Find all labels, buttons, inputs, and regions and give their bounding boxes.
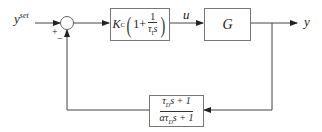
s-symbol: s [154, 23, 158, 34]
filter-numerator: τDs + 1 [160, 95, 193, 112]
left-paren: ( [127, 13, 132, 37]
right-paren: ) [161, 13, 166, 37]
integral-fraction: 1 τIs [146, 11, 160, 39]
controller-block: KC ( 1 + 1 τIs ) [110, 8, 170, 41]
plant-block: G [204, 8, 251, 41]
controller-gain-subscript: C [121, 21, 126, 29]
plant-label: G [222, 18, 232, 32]
setpoint-label: yset [14, 12, 29, 25]
output-label: y [304, 15, 310, 28]
numerator-rest: s + 1 [170, 95, 191, 106]
integral-numerator: 1 [148, 11, 157, 23]
filter-denominator: ατDs + 1 [158, 112, 196, 128]
controller-transfer-function: KC ( 1 + 1 τIs ) [113, 11, 168, 39]
setpoint-superscript: set [20, 11, 29, 20]
feedback-filter-block: τDs + 1 ατDs + 1 [149, 95, 204, 127]
controller-plus: + [139, 17, 146, 32]
control-signal-label: u [183, 8, 190, 21]
denominator-rest: s + 1 [173, 112, 194, 123]
filter-fraction: τDs + 1 ατDs + 1 [158, 95, 196, 128]
integral-denominator: τIs [146, 23, 160, 39]
controller-gain: K [113, 17, 121, 32]
minus-sign: − [57, 34, 63, 44]
